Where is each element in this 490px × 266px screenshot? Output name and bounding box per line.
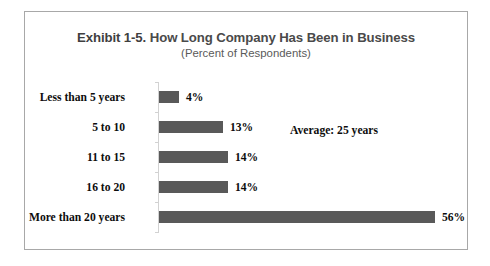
axis-tick bbox=[155, 232, 158, 233]
bar-group: 13% bbox=[159, 121, 253, 133]
category-label: 16 to 20 bbox=[86, 181, 125, 194]
bar-value-label: 14% bbox=[235, 181, 258, 194]
bar-group: 14% bbox=[159, 151, 258, 163]
table-row: 16 to 20 14% bbox=[25, 172, 467, 202]
category-label: More than 20 years bbox=[29, 211, 125, 224]
bar bbox=[159, 181, 228, 193]
bar-group: 4% bbox=[159, 91, 203, 103]
table-row: Less than 5 years 4% bbox=[25, 82, 467, 112]
table-row: 5 to 10 13% bbox=[25, 112, 467, 142]
chart-frame: Exhibit 1-5. How Long Company Has Been i… bbox=[24, 11, 468, 250]
bar-value-label: 14% bbox=[235, 151, 258, 164]
bar-group: 56% bbox=[159, 211, 465, 223]
bar-group: 14% bbox=[159, 181, 258, 193]
bar bbox=[159, 151, 228, 163]
table-row: More than 20 years 56% bbox=[25, 202, 467, 232]
category-label: 11 to 15 bbox=[87, 151, 125, 164]
bar bbox=[159, 91, 179, 103]
average-annotation: Average: 25 years bbox=[290, 124, 378, 137]
bar bbox=[159, 211, 435, 223]
category-label: 5 to 10 bbox=[92, 121, 125, 134]
category-label: Less than 5 years bbox=[40, 91, 125, 104]
bar-value-label: 56% bbox=[442, 211, 465, 224]
table-row: 11 to 15 14% bbox=[25, 142, 467, 172]
plot-area: Less than 5 years 4% 5 to 10 13% 11 to 1… bbox=[25, 12, 467, 249]
bar-value-label: 4% bbox=[186, 91, 203, 104]
bar-value-label: 13% bbox=[230, 121, 253, 134]
bar bbox=[159, 121, 223, 133]
